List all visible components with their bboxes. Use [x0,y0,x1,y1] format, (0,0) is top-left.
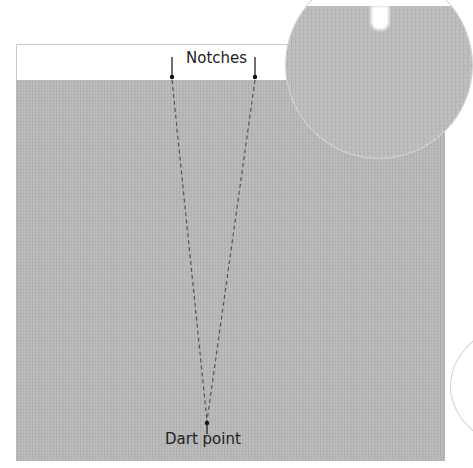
left-notch-dot [170,75,174,79]
magnified-notch [371,6,389,30]
notches-label: Notches [186,49,247,67]
dart-point-label: Dart point [165,430,241,448]
dart-leg-right [207,80,255,421]
dart-leg-left [172,80,207,421]
right-notch-dot [253,75,257,79]
notch-magnifier-circle [285,0,473,159]
